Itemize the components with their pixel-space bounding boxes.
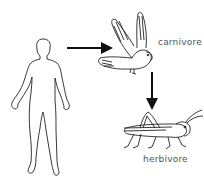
food-chain-diagram: carnivore herbivore	[0, 0, 204, 179]
grasshopper-icon	[124, 110, 203, 149]
herbivore-label: herbivore	[143, 154, 188, 164]
bird-icon	[99, 12, 153, 74]
carnivore-label: carnivore	[158, 37, 202, 47]
human-outline-icon	[12, 39, 70, 175]
